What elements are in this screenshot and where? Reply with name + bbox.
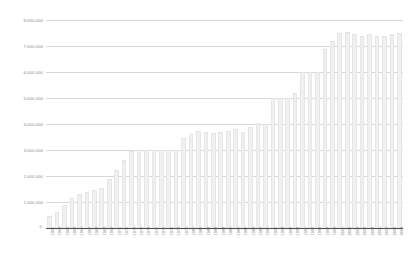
- chart-title: Chart: [0, 0, 410, 2]
- x-tick-slot: 1996: [306, 230, 313, 254]
- x-tick-slot: 1969: [106, 230, 113, 254]
- bar: [263, 124, 268, 228]
- x-tick-slot: 2007: [388, 230, 395, 254]
- bar-slot: [217, 20, 224, 228]
- x-tick-slot: 1991: [269, 230, 276, 254]
- x-tick-slot: 1992: [277, 230, 284, 254]
- y-axis-tick-label: 6.000.000: [3, 70, 43, 75]
- x-tick-slot: 1982: [202, 230, 209, 254]
- x-tick-slot: 1997: [314, 230, 321, 254]
- bar: [248, 127, 253, 228]
- x-tick-slot: 1973: [135, 230, 142, 254]
- bar-slot: [158, 20, 165, 228]
- bar-slot: [195, 20, 202, 228]
- bar-slot: [284, 20, 291, 228]
- bar: [271, 98, 276, 228]
- y-axis-tick-label: 5.000.000: [3, 96, 43, 101]
- bar-slot: [351, 20, 358, 228]
- bar: [114, 170, 119, 229]
- bar: [174, 150, 179, 228]
- x-tick-slot: 1999: [329, 230, 336, 254]
- bar: [211, 133, 216, 228]
- x-tick-slot: 2005: [373, 230, 380, 254]
- bar: [196, 131, 201, 229]
- x-axis-tick-label: 2008: [399, 227, 404, 236]
- bar-slot: [381, 20, 388, 228]
- bar: [330, 41, 335, 228]
- x-tick-slot: 1994: [291, 230, 298, 254]
- bar-slot: [143, 20, 150, 228]
- bar-slot: [239, 20, 246, 228]
- bar: [256, 123, 261, 228]
- x-tick-slot: 1985: [225, 230, 232, 254]
- x-tick-slot: 1986: [232, 230, 239, 254]
- bar: [218, 132, 223, 228]
- bar-slot: [269, 20, 276, 228]
- x-tick-slot: 1979: [180, 230, 187, 254]
- bar: [382, 36, 387, 228]
- bar-slot: [113, 20, 120, 228]
- bar: [337, 33, 342, 228]
- x-tick-slot: 1967: [91, 230, 98, 254]
- x-tick-slot: 2000: [336, 230, 343, 254]
- x-tick-slot: 1972: [128, 230, 135, 254]
- bar: [181, 138, 186, 228]
- x-tick-slot: 1968: [98, 230, 105, 254]
- bar: [308, 72, 313, 228]
- bar-slot: [76, 20, 83, 228]
- bar-slot: [336, 20, 343, 228]
- x-tick-slot: 1966: [83, 230, 90, 254]
- bar-chart: Chart 8.000.0007.000.0006.000.0005.000.0…: [0, 0, 410, 256]
- bar-slot: [232, 20, 239, 228]
- x-tick-slot: 1964: [68, 230, 75, 254]
- x-tick-slot: 1980: [187, 230, 194, 254]
- bar: [397, 33, 402, 228]
- bar-slot: [53, 20, 60, 228]
- bar: [77, 194, 82, 228]
- x-tick-slot: 2002: [351, 230, 358, 254]
- bar: [345, 32, 350, 228]
- bar: [278, 98, 283, 228]
- x-tick-slot: 1984: [217, 230, 224, 254]
- bar-slot: [396, 20, 403, 228]
- bar-slot: [46, 20, 53, 228]
- x-tick-slot: 1981: [195, 230, 202, 254]
- bar-slot: [254, 20, 261, 228]
- y-axis-tick-label: 4.000.000: [3, 122, 43, 127]
- bar-slot: [98, 20, 105, 228]
- bar-slot: [314, 20, 321, 228]
- bar: [99, 188, 104, 228]
- bar: [241, 132, 246, 228]
- x-tick-slot: 1993: [284, 230, 291, 254]
- bar-slot: [388, 20, 395, 228]
- bar-slot: [373, 20, 380, 228]
- bar: [152, 150, 157, 228]
- x-tick-slot: 2006: [381, 230, 388, 254]
- bar: [352, 34, 357, 228]
- x-tick-slot: 1963: [61, 230, 68, 254]
- bar: [92, 190, 97, 228]
- bar-slot: [299, 20, 306, 228]
- bar: [315, 72, 320, 228]
- bar: [300, 72, 305, 228]
- x-tick-slot: 1995: [299, 230, 306, 254]
- x-tick-slot: 1975: [150, 230, 157, 254]
- bar-slot: [210, 20, 217, 228]
- bar-series: [46, 20, 403, 228]
- bar: [144, 150, 149, 228]
- bar: [122, 160, 127, 228]
- bar-slot: [180, 20, 187, 228]
- bar: [360, 36, 365, 228]
- x-tick-slot: 1977: [165, 230, 172, 254]
- bar-slot: [120, 20, 127, 228]
- bar-slot: [329, 20, 336, 228]
- x-tick-slot: 1970: [113, 230, 120, 254]
- x-tick-slot: 1976: [158, 230, 165, 254]
- bar-slot: [225, 20, 232, 228]
- y-axis-tick-label: 7.000.000: [3, 44, 43, 49]
- x-axis-labels: 1961196219631964196519661967196819691970…: [46, 230, 403, 254]
- bar: [233, 129, 238, 228]
- plot-area: [46, 20, 403, 228]
- bar: [293, 93, 298, 228]
- bar-slot: [135, 20, 142, 228]
